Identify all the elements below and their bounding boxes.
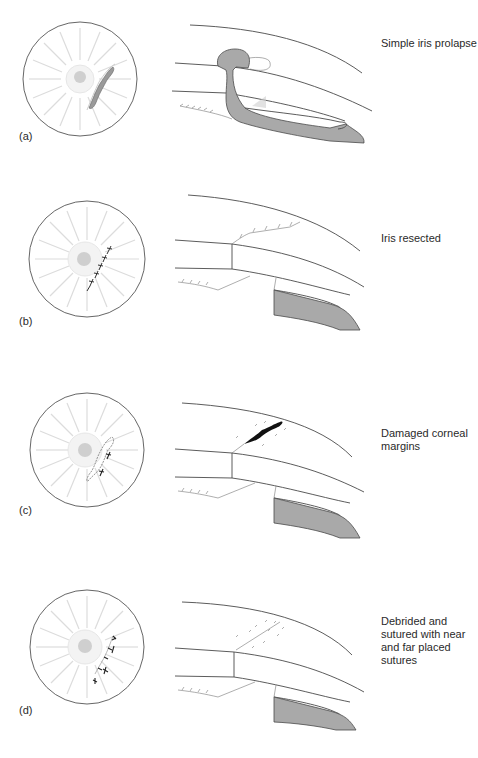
panel-b-label: (b) <box>19 315 32 327</box>
cornea-cross-section-icon <box>175 403 364 538</box>
eye-front-view-icon <box>23 22 137 136</box>
panel-d-label: (d) <box>19 704 32 716</box>
panel-c: (c) Damaged corneal margins <box>0 380 478 570</box>
panel-c-caption: Damaged corneal margins <box>381 427 478 453</box>
panel-a-caption: Simple iris prolapse <box>381 37 478 50</box>
eye-front-view-icon <box>30 590 144 704</box>
panel-b-illustration <box>0 180 478 380</box>
panel-c-label: (c) <box>19 504 32 516</box>
panel-a: (a) Simple iris prolapse <box>0 0 478 180</box>
panel-c-illustration <box>0 380 478 570</box>
cornea-cross-section-icon <box>175 195 364 330</box>
eye-front-view-icon <box>29 201 145 317</box>
panel-b: (b) Iris resected <box>0 180 478 380</box>
panel-a-label: (a) <box>19 130 32 142</box>
panel-a-illustration <box>0 0 478 180</box>
eye-front-view-icon <box>30 393 144 507</box>
panel-d-caption: Debrided and sutured with near and far p… <box>381 615 473 667</box>
panel-d: (d) Debrided and sutured with near and f… <box>0 570 478 758</box>
cornea-cross-section-icon <box>175 602 364 730</box>
panel-b-caption: Iris resected <box>381 232 478 245</box>
cornea-cross-section-icon <box>172 25 372 143</box>
